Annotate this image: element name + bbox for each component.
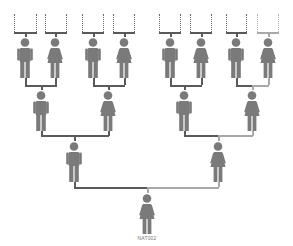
unknown-ancestor-line [103, 14, 104, 32]
connector [25, 78, 27, 85]
male-icon [33, 91, 49, 131]
connector [93, 32, 95, 37]
connector [252, 85, 254, 90]
connector [147, 187, 219, 189]
connector [93, 78, 95, 85]
unknown-ancestor-line [226, 14, 227, 32]
connector [147, 187, 149, 193]
connector [25, 32, 27, 37]
unknown-ancestor-line [36, 14, 37, 32]
unknown-ancestor-line [82, 14, 83, 32]
person-father[interactable] [66, 142, 82, 182]
female-icon [116, 38, 132, 78]
female-icon [139, 194, 155, 234]
person-male[interactable] [162, 38, 178, 78]
female-icon [210, 142, 226, 182]
person-female[interactable] [100, 91, 116, 131]
female-icon [47, 38, 63, 78]
connector [218, 135, 253, 137]
unknown-ancestor-line [246, 14, 247, 32]
connector [55, 78, 57, 85]
unknown-ancestor-line [257, 14, 258, 32]
person-female[interactable] [47, 38, 63, 78]
root-person-label: NAT002 [127, 235, 167, 241]
unknown-ancestor-line [14, 14, 15, 32]
person-root[interactable] [139, 194, 155, 234]
unknown-ancestor-line [45, 14, 46, 32]
unknown-ancestor-line [134, 14, 135, 32]
male-icon [228, 38, 244, 78]
connector [184, 135, 218, 137]
connector [170, 32, 172, 37]
male-icon [17, 38, 33, 78]
connector [124, 32, 126, 37]
connector [74, 135, 76, 141]
connector [218, 135, 220, 141]
person-male[interactable] [176, 91, 192, 131]
connector [236, 78, 238, 85]
connector [236, 32, 238, 37]
female-icon [260, 38, 276, 78]
connector [184, 85, 186, 90]
male-icon [85, 38, 101, 78]
unknown-ancestor-line [66, 14, 67, 32]
connector [41, 85, 43, 90]
connector [201, 32, 203, 37]
person-male[interactable] [85, 38, 101, 78]
person-mother[interactable] [210, 142, 226, 182]
unknown-ancestor-line [211, 14, 212, 32]
connector [108, 85, 110, 90]
male-icon [66, 142, 82, 182]
person-male[interactable] [33, 91, 49, 131]
male-icon [162, 38, 178, 78]
person-male[interactable] [228, 38, 244, 78]
connector [252, 85, 269, 87]
connector [124, 78, 126, 85]
person-female[interactable] [244, 91, 260, 131]
unknown-ancestor-line [278, 14, 279, 32]
person-female[interactable] [116, 38, 132, 78]
person-male[interactable] [17, 38, 33, 78]
unknown-ancestor-line [180, 14, 181, 32]
connector [268, 78, 270, 85]
unknown-ancestor-line [190, 14, 191, 32]
female-icon [244, 91, 260, 131]
unknown-ancestor-line [159, 14, 160, 32]
person-female[interactable] [260, 38, 276, 78]
connector [268, 32, 270, 37]
connector [55, 32, 57, 37]
unknown-ancestor-line [113, 14, 114, 32]
person-female[interactable] [193, 38, 209, 78]
male-icon [176, 91, 192, 131]
connector [170, 85, 202, 87]
connector [74, 187, 147, 189]
connector [201, 78, 203, 85]
female-icon [100, 91, 116, 131]
female-icon [193, 38, 209, 78]
connector [236, 85, 252, 87]
connector [170, 78, 172, 85]
